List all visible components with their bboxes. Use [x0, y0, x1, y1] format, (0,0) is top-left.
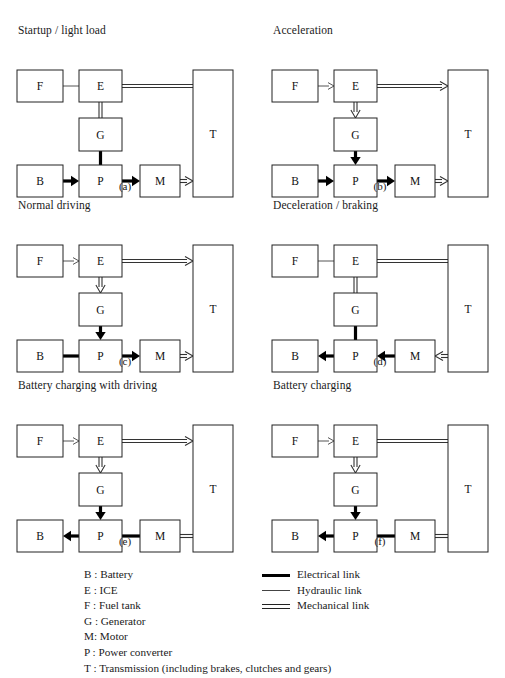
box-g[interactable]: G: [334, 118, 377, 151]
svg-text:F: F: [37, 80, 43, 92]
link-E-to-G-mechanical: [354, 277, 357, 293]
box-e[interactable]: E: [334, 245, 377, 277]
box-t[interactable]: T: [448, 70, 488, 197]
box-f[interactable]: F: [272, 425, 318, 457]
svg-text:G: G: [351, 129, 359, 141]
svg-text:T: T: [464, 303, 471, 315]
box-g[interactable]: G: [79, 118, 122, 151]
link-F-to-E-hydraulic: [318, 438, 334, 445]
panel-caption-c: (c): [0, 355, 250, 367]
svg-text:E: E: [97, 435, 104, 447]
link-G-to-P-electrical: [95, 326, 105, 340]
link-E-to-T-mechanical: [122, 436, 193, 445]
svg-text:G: G: [96, 129, 104, 141]
mechanical-link-sample: [262, 600, 290, 612]
box-t[interactable]: T: [193, 70, 233, 197]
svg-text:F: F: [292, 80, 298, 92]
panel-diagram-f: FEGBPMT: [255, 375, 505, 555]
panel-d: Deceleration / brakingFEGBPMT(d): [255, 195, 505, 375]
box-t[interactable]: T: [448, 245, 488, 372]
panel-diagram-c: FEGBPMT: [0, 195, 250, 375]
box-f[interactable]: F: [17, 245, 63, 277]
link-E-to-T-mechanical: [377, 81, 448, 90]
box-e[interactable]: E: [79, 70, 122, 102]
svg-text:F: F: [37, 255, 43, 267]
panel-caption-f: (f): [255, 535, 505, 547]
svg-text:G: G: [96, 484, 104, 496]
svg-text:T: T: [464, 483, 471, 495]
panel-diagram-a: FEGBPMT: [0, 20, 250, 200]
legend-abbreviation: G : Generator: [84, 614, 331, 630]
box-e[interactable]: E: [79, 245, 122, 277]
svg-text:T: T: [464, 128, 471, 140]
panel-caption-b: (b): [255, 180, 505, 192]
svg-text:E: E: [352, 255, 359, 267]
panel-c: Normal drivingFEGBPMT(c): [0, 195, 250, 375]
box-g[interactable]: G: [79, 473, 122, 506]
link-E-to-G-mechanical: [96, 277, 105, 293]
legend-link-label: Mechanical link: [297, 598, 369, 614]
box-t[interactable]: T: [448, 425, 488, 552]
link-E-to-G-mechanical: [351, 102, 360, 118]
svg-text:F: F: [292, 255, 298, 267]
legend-link-row: Hydraulic link: [262, 583, 369, 599]
box-t[interactable]: T: [193, 425, 233, 552]
link-E-to-T-mechanical: [377, 260, 448, 263]
box-f[interactable]: F: [272, 245, 318, 277]
svg-text:E: E: [97, 80, 104, 92]
svg-text:T: T: [209, 303, 216, 315]
box-g[interactable]: G: [79, 293, 122, 326]
panel-diagram-b: FEGBPMT: [255, 20, 505, 200]
svg-text:G: G: [351, 304, 359, 316]
legend-abbreviation: P : Power converter: [84, 645, 331, 661]
link-G-to-P-electrical: [95, 506, 105, 520]
box-e[interactable]: E: [79, 425, 122, 457]
link-E-to-T-mechanical: [377, 440, 448, 443]
panel-diagram-d: FEGBPMT: [255, 195, 505, 375]
svg-text:E: E: [352, 80, 359, 92]
legend-abbreviation: M: Motor: [84, 629, 331, 645]
link-G-to-P-electrical: [350, 151, 360, 165]
link-E-to-T-mechanical: [122, 256, 193, 265]
svg-text:T: T: [209, 128, 216, 140]
panel-caption-d: (d): [255, 355, 505, 367]
link-E-to-G-mechanical: [99, 102, 102, 118]
panel-a: Startup / light loadFEGBPMT(a): [0, 20, 250, 200]
link-F-to-E-hydraulic: [318, 83, 334, 90]
svg-text:G: G: [351, 484, 359, 496]
box-f[interactable]: F: [17, 425, 63, 457]
panel-e: Battery charging with drivingFEGBPMT(e): [0, 375, 250, 555]
legend-link-row: Mechanical link: [262, 598, 369, 614]
svg-text:E: E: [97, 255, 104, 267]
box-g[interactable]: G: [334, 473, 377, 506]
link-G-to-P-electrical: [350, 506, 360, 520]
link-F-to-E-hydraulic: [63, 438, 79, 445]
legend-abbreviation: T : Transmission (including brakes, clut…: [84, 661, 331, 677]
link-E-to-T-mechanical: [122, 85, 193, 88]
legend-link-label: Hydraulic link: [297, 583, 362, 599]
panel-caption-e: (e): [0, 535, 250, 547]
box-f[interactable]: F: [17, 70, 63, 102]
legend-link-row: Electrical link: [262, 567, 369, 583]
svg-text:E: E: [352, 435, 359, 447]
legend-link-types: Electrical linkHydraulic linkMechanical …: [262, 567, 369, 614]
box-e[interactable]: E: [334, 70, 377, 102]
box-g[interactable]: G: [334, 293, 377, 326]
link-E-to-G-mechanical: [351, 457, 360, 473]
svg-text:G: G: [96, 304, 104, 316]
hydraulic-link-sample: [262, 584, 290, 596]
panel-caption-a: (a): [0, 180, 250, 192]
box-f[interactable]: F: [272, 70, 318, 102]
figure-sheet: Startup / light loadFEGBPMT(a)Accelerati…: [0, 0, 505, 678]
svg-text:F: F: [292, 435, 298, 447]
panel-diagram-e: FEGBPMT: [0, 375, 250, 555]
legend-link-label: Electrical link: [297, 567, 360, 583]
svg-text:T: T: [209, 483, 216, 495]
panel-f: Battery chargingFEGBPMT(f): [255, 375, 505, 555]
box-e[interactable]: E: [334, 425, 377, 457]
link-E-to-G-mechanical: [96, 457, 105, 473]
figure-legend: B : BatteryE : ICEF : Fuel tankG : Gener…: [0, 565, 505, 678]
link-F-to-E-hydraulic: [63, 258, 79, 265]
box-t[interactable]: T: [193, 245, 233, 372]
svg-text:F: F: [37, 435, 43, 447]
